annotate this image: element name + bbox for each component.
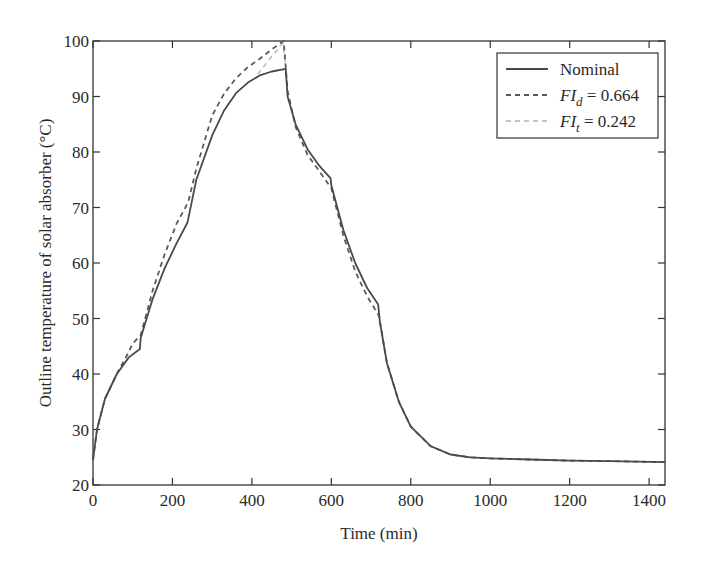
y-tick-label: 70 bbox=[72, 199, 89, 218]
y-tick-label: 80 bbox=[72, 143, 89, 162]
legend-label: Nominal bbox=[560, 60, 620, 79]
y-tick-label: 100 bbox=[64, 32, 90, 51]
x-tick-label: 1000 bbox=[473, 491, 507, 510]
y-axis-label: Outline temperature of solar absorber (°… bbox=[36, 119, 55, 408]
x-tick-label: 600 bbox=[319, 491, 345, 510]
x-axis-label: Time (min) bbox=[340, 524, 417, 543]
y-tick-label: 90 bbox=[72, 88, 89, 107]
y-tick-label: 30 bbox=[72, 421, 89, 440]
x-tick-label: 200 bbox=[160, 491, 186, 510]
y-tick-label: 40 bbox=[72, 365, 89, 384]
x-tick-label: 1200 bbox=[553, 491, 587, 510]
y-tick-label: 60 bbox=[72, 254, 89, 273]
legend: NominalFId = 0.664FIt = 0.242 bbox=[497, 53, 658, 138]
x-tick-label: 1400 bbox=[632, 491, 666, 510]
x-tick-label: 0 bbox=[89, 491, 98, 510]
x-tick-label: 400 bbox=[239, 491, 265, 510]
x-tick-label: 800 bbox=[398, 491, 424, 510]
y-tick-label: 20 bbox=[72, 476, 89, 495]
line-chart: 0200400600800100012001400 20304050607080… bbox=[0, 0, 703, 570]
y-tick-label: 50 bbox=[72, 310, 89, 329]
